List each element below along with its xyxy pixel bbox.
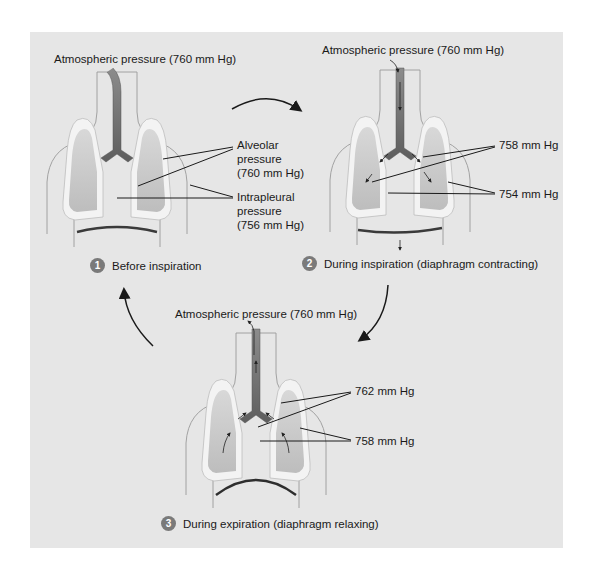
step-badge: 3 [161,516,176,531]
cycle-arrow-2-to-3 [360,285,388,340]
stage-1-alveolar-label: Alveolar pressure (760 mm Hg) [237,138,304,180]
stage-2-caption: 2 During inspiration (diaphragm contract… [302,256,538,271]
cycle-arrow-3-to-1 [124,290,153,346]
stage-1-caption: 1 Before inspiration [90,258,202,273]
stage-2-intrapleural-label: 754 mm Hg [499,187,558,201]
stage-1-illustration [47,68,187,247]
cycle-arrow-1-to-2 [232,99,300,110]
stage-3-illustration [186,321,326,508]
stage-1-atmospheric-label: Atmospheric pressure (760 mm Hg) [54,52,236,66]
stage-1-intrapleural-label: Intrapleural pressure (756 mm Hg) [237,190,304,232]
step-badge: 1 [90,258,105,273]
stage-2-atmospheric-label: Atmospheric pressure (760 mm Hg) [322,43,504,57]
stage-2-illustration [330,60,470,250]
stage-3-intrapleural-label: 758 mm Hg [355,434,414,448]
respiration-diagram [0,0,591,568]
step-badge: 2 [302,256,317,271]
stage-3-alveolar-label: 762 mm Hg [355,384,414,398]
stage-3-atmospheric-label: Atmospheric pressure (760 mm Hg) [175,307,357,321]
stage-3-caption: 3 During expiration (diaphragm relaxing) [161,516,379,531]
stage-2-alveolar-label: 758 mm Hg [499,138,558,152]
